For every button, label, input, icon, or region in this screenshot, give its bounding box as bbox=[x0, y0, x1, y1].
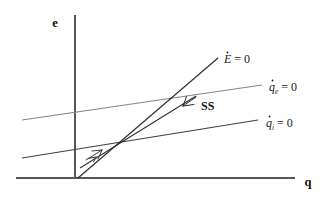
x-axis-label: q bbox=[305, 175, 312, 189]
e-dot-accent-icon bbox=[227, 52, 229, 54]
q-e-dot-accent-icon bbox=[272, 80, 274, 82]
svg-text:qe = 0: qe = 0 bbox=[269, 80, 297, 96]
e-dot-equation: = 0 bbox=[231, 52, 250, 66]
q-e-equation: = 0 bbox=[278, 80, 297, 94]
label-q-e-nullcline: qe = 0 bbox=[269, 80, 297, 96]
phase-diagram-figure: e q E = 0 qe = 0 qi = 0 SS bbox=[0, 0, 326, 197]
label-saddle-path-ss: SS bbox=[201, 99, 215, 113]
y-axis-label: e bbox=[52, 16, 58, 30]
q-i-equation: = 0 bbox=[274, 116, 293, 130]
svg-text:qi = 0: qi = 0 bbox=[266, 116, 293, 132]
q-i-dot-accent-icon bbox=[269, 116, 271, 118]
svg-text:E = 0: E = 0 bbox=[223, 52, 250, 66]
figure-background bbox=[0, 0, 326, 197]
phase-diagram-canvas: e q E = 0 qe = 0 qi = 0 SS bbox=[0, 0, 326, 197]
label-e-dot-nullcline: E = 0 bbox=[223, 52, 250, 66]
label-q-i-nullcline: qi = 0 bbox=[266, 116, 293, 132]
